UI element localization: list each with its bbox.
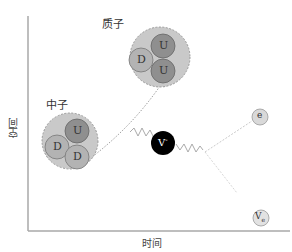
proton-quark-label: D [137,53,146,66]
boson-wave-out [176,144,203,152]
neutron-quark-label: D [53,140,62,153]
neutron-quark-label: D [73,150,82,163]
neutron-label: 中子 [46,96,68,112]
y-axis-label: 空间 [6,118,21,138]
electron-label: e [257,110,262,120]
proton-quark-label: U [159,64,168,77]
boson-label: V- [158,136,168,148]
electron-line [205,121,252,152]
boson-charge: - [165,136,167,144]
neutron [42,113,98,169]
proton-quark-label: U [159,39,168,52]
feynman-diagram [0,0,292,252]
neutrino-flavor: e [262,216,266,223]
neutrino-label: Ve [255,211,265,223]
x-axis-label: 时间 [142,235,162,250]
neutron-quark-label: U [73,124,82,137]
proton-label: 质子 [102,15,124,31]
boson-wave-in [130,128,153,136]
neutron-to-proton-path [88,86,160,160]
neutrino-line [205,152,237,193]
